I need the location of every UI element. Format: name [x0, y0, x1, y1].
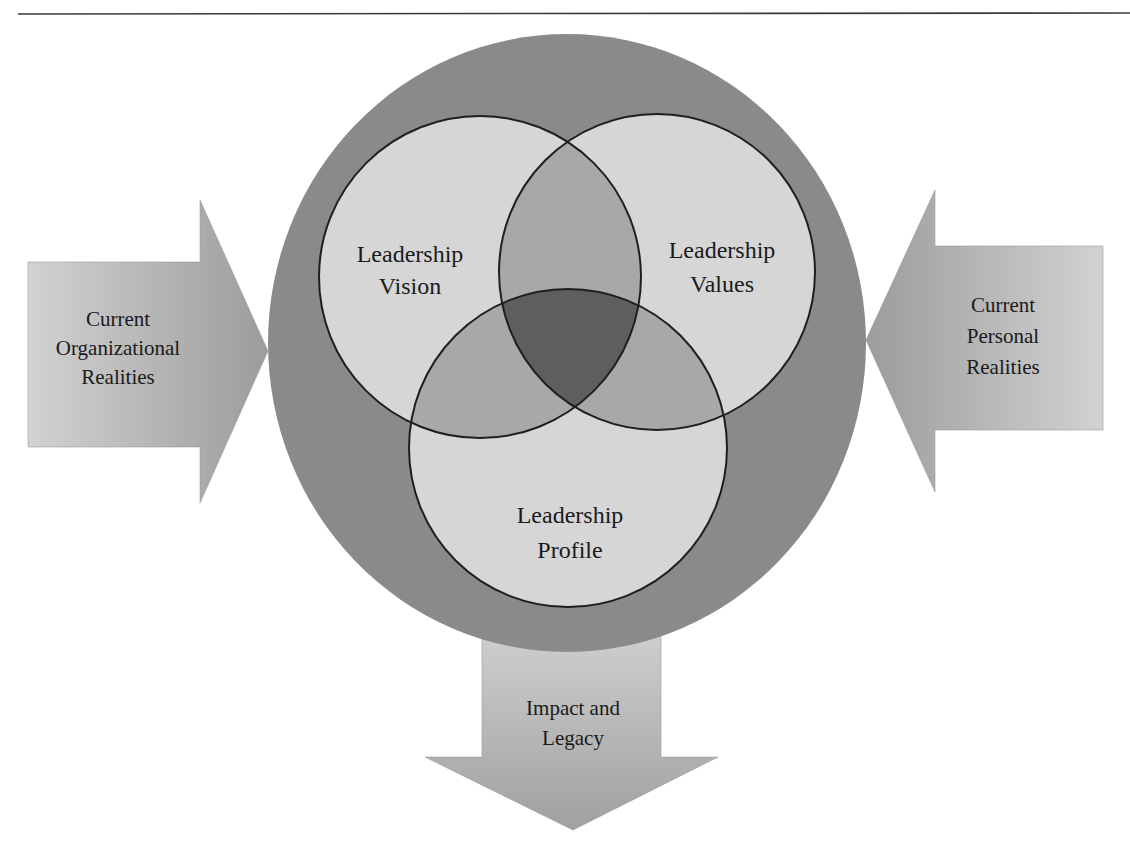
- arrow-left-label-line3: Realities: [81, 365, 154, 389]
- arrow-right-label-line1: Current: [971, 293, 1035, 317]
- venn-values-label-line1: Leadership: [669, 237, 776, 263]
- arrow-right-personal-realities: Current Personal Realities: [866, 190, 1103, 492]
- venn-values-label-line2: Values: [690, 271, 754, 297]
- venn-vision-label-line1: Leadership: [357, 241, 464, 267]
- venn-profile-label-line2: Profile: [537, 537, 602, 563]
- arrow-left-label-line1: Current: [86, 307, 150, 331]
- venn-profile-label-line1: Leadership: [517, 502, 624, 528]
- venn-vision-label-line2: Vision: [379, 273, 442, 299]
- arrow-right-label-line2: Personal: [967, 324, 1039, 348]
- header-rule: [18, 13, 1130, 14]
- leadership-diagram: Current Organizational Realities Current…: [0, 0, 1130, 856]
- arrow-left-organizational-realities: Current Organizational Realities: [28, 200, 268, 503]
- arrow-down-label-line1: Impact and: [526, 696, 620, 720]
- arrow-left-label-line2: Organizational: [56, 336, 181, 360]
- arrow-right-label-line3: Realities: [966, 355, 1039, 379]
- arrow-down-label-line2: Legacy: [542, 726, 604, 750]
- arrow-down-impact-legacy: Impact and Legacy: [425, 630, 718, 830]
